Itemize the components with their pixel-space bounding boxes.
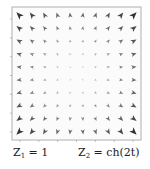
caption-z2: Z2 = ch(2t) bbox=[78, 146, 140, 160]
caption-z1-value: = 1 bbox=[25, 146, 48, 159]
vector-field-figure: Z1 = 1 Z2 = ch(2t) bbox=[0, 0, 150, 169]
caption-z2-value: = ch(2t) bbox=[90, 146, 139, 159]
caption-z1: Z1 = 1 bbox=[13, 146, 48, 160]
caption-z1-var: Z bbox=[13, 146, 21, 159]
quiver-plot bbox=[0, 0, 150, 169]
caption-z2-var: Z bbox=[78, 146, 86, 159]
